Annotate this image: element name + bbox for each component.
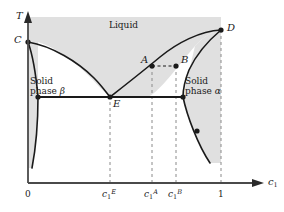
x-axis-label-sub: 1 [274, 181, 278, 189]
solid-beta-line2: phase [30, 86, 57, 96]
region-label-solid-alpha: Solid phase α [185, 77, 237, 96]
point-label-D: D [227, 23, 235, 34]
solid-alpha-region-shading [148, 97, 221, 163]
point-marker-A [149, 63, 154, 68]
x-tick-label-one: 1 [218, 190, 224, 200]
point-marker-E [107, 94, 112, 99]
x-tick-label-zero: 0 [25, 190, 31, 200]
phase-diagram-figure: T c1 Liquid Solid phase β Solid phase α … [0, 0, 284, 212]
region-label-solid-beta: Solid phase β [30, 77, 78, 96]
x-tick-cA-sup: A [153, 188, 158, 196]
alpha-solvus-marker [194, 128, 199, 133]
x-tick-cB-sup: B [177, 188, 182, 196]
point-marker-B [173, 63, 178, 68]
solid-alpha-line2: phase [185, 86, 212, 96]
region-label-liquid: Liquid [109, 21, 138, 31]
point-label-C: C [14, 35, 22, 46]
y-axis-label: T [16, 11, 23, 22]
beta-symbol: β [60, 86, 65, 96]
x-tick-label-cE: c1E [102, 189, 116, 201]
x-tick-label-cB: c1B [168, 189, 182, 201]
x-tick-label-cA: c1A [144, 189, 158, 201]
x-tick-cE-sup: E [111, 188, 116, 196]
alpha-symbol: α [215, 86, 221, 96]
phase-diagram-canvas [0, 0, 284, 212]
point-label-B: B [181, 55, 188, 66]
point-label-A: A [141, 55, 148, 66]
x-axis-label: c1 [268, 177, 278, 189]
solid-beta-line1: Solid [30, 76, 53, 86]
solid-alpha-line1: Solid [185, 76, 208, 86]
point-label-E: E [113, 99, 120, 110]
point-marker-D [218, 27, 223, 32]
x-axis-arrowhead [252, 179, 264, 187]
